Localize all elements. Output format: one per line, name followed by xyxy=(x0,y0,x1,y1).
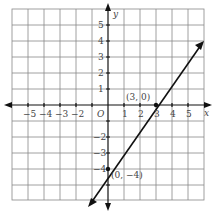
point-label-3-0: (3, 0) xyxy=(126,92,150,102)
x-tick: 2 xyxy=(138,109,144,119)
x-tick: 5 xyxy=(186,109,192,119)
x-tick: 4 xyxy=(170,109,176,119)
data-line xyxy=(88,41,204,207)
y-tick: −3 xyxy=(93,148,107,158)
labels: y x O (3, 0) (0, −4) −5 −4 −3 −2 1 2 3 4… xyxy=(23,9,209,180)
x-tick: 1 xyxy=(122,109,128,119)
y-tick: −2 xyxy=(93,132,106,142)
x-tick: −2 xyxy=(71,109,84,119)
y-tick: −4 xyxy=(93,164,107,174)
x-tick: −5 xyxy=(23,109,37,119)
x-tick: −4 xyxy=(39,109,53,119)
coordinate-graph: y x O (3, 0) (0, −4) −5 −4 −3 −2 1 2 3 4… xyxy=(0,0,216,212)
y-tick: 4 xyxy=(98,36,104,46)
point-0-neg4 xyxy=(106,167,110,171)
x-tick: 3 xyxy=(154,109,160,119)
y-tick: 2 xyxy=(98,68,104,78)
x-axis-label: x xyxy=(204,108,209,118)
y-tick: 3 xyxy=(98,52,104,62)
y-tick: 1 xyxy=(98,84,104,94)
x-tick: −3 xyxy=(55,109,69,119)
origin-label: O xyxy=(97,109,105,119)
y-tick: 5 xyxy=(98,20,104,30)
point-label-0-neg4: (0, −4) xyxy=(111,170,143,180)
y-axis-label: y xyxy=(112,9,119,19)
point-3-0 xyxy=(154,103,158,107)
